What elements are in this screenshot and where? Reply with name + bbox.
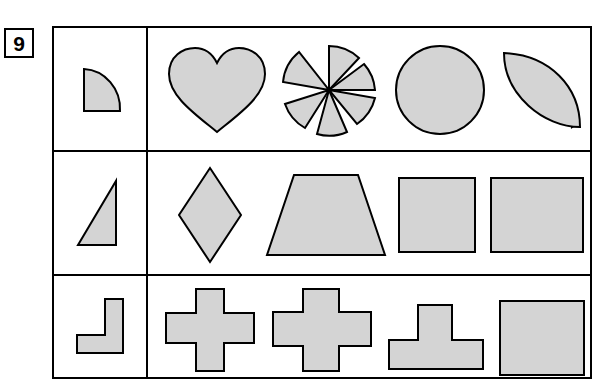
square-large-icon[interactable] xyxy=(492,292,592,378)
question-number-label: 9 xyxy=(13,33,25,54)
cross-thin-icon[interactable] xyxy=(156,282,264,378)
el-shape-icon xyxy=(54,276,146,377)
half-disc-icon[interactable] xyxy=(492,36,592,144)
page-top-edge xyxy=(52,0,592,1)
cross-thick-icon[interactable] xyxy=(264,282,380,378)
quarter-circle-icon xyxy=(54,28,146,150)
rhombus-icon[interactable] xyxy=(158,160,262,270)
t-shape-icon[interactable] xyxy=(380,296,492,378)
row-3-options-cell xyxy=(146,274,592,379)
row-1-options-cell xyxy=(146,26,592,152)
circle-icon[interactable] xyxy=(388,36,492,144)
row-2-options-cell xyxy=(146,150,592,276)
heart-icon[interactable] xyxy=(162,36,272,144)
table-row xyxy=(52,274,592,379)
worksheet-page: 9 xyxy=(0,0,592,379)
shape-grid xyxy=(52,26,592,379)
square-icon[interactable] xyxy=(392,168,482,262)
row-2-prompt-cell[interactable] xyxy=(52,150,148,276)
pinwheel-icon[interactable] xyxy=(274,36,384,144)
right-triangle-icon xyxy=(54,152,146,274)
question-number-box: 9 xyxy=(4,28,34,58)
rectangle-icon[interactable] xyxy=(484,168,590,262)
row-3-prompt-cell[interactable] xyxy=(52,274,148,379)
table-row xyxy=(52,26,592,152)
table-row xyxy=(52,150,592,276)
trapezoid-icon[interactable] xyxy=(262,166,390,264)
row-1-prompt-cell[interactable] xyxy=(52,26,148,152)
